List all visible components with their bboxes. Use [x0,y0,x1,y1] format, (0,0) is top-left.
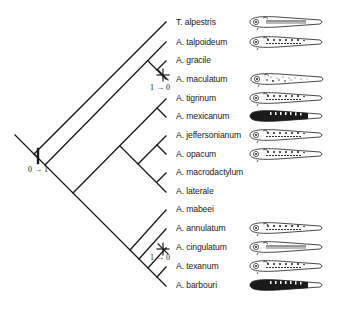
larva-a-annulatum [250,223,322,236]
larva-a-jeffersonianum [250,130,322,143]
larva-t-alpestris [250,17,322,30]
larva-a-mexicanum [250,111,322,122]
larva-a-barbouri [250,280,322,291]
larva-illustrations [0,0,339,311]
larva-a-texanum [250,261,322,274]
larva-a-maculatum [251,74,323,87]
larva-a-opacum [250,149,322,162]
larva-a-cingulatum [250,242,322,255]
larva-a-tigrinum [250,93,322,106]
larva-a-talpoideum [250,37,322,50]
